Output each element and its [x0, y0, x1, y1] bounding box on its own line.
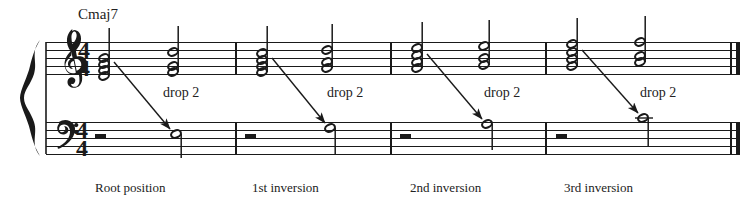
caption-3rd-inversion: 3rd inversion	[564, 180, 633, 196]
system-brace	[20, 40, 40, 156]
drop2-arrow-2	[272, 58, 325, 123]
svg-text:4: 4	[78, 55, 90, 81]
rest-m1	[95, 134, 106, 139]
rest-m4	[556, 134, 567, 139]
caption-1st-inversion: 1st inversion	[252, 180, 319, 196]
chord-m2-source	[256, 26, 268, 77]
measure-2	[245, 24, 336, 154]
caption-2nd-inversion: 2nd inversion	[410, 180, 481, 196]
caption-root-position: Root position	[95, 180, 165, 196]
chord-m3-drop2-treble	[478, 20, 490, 70]
music-notation-figure: 4 4 4 4	[0, 0, 752, 213]
chord-symbol-cmaj7: Cmaj7	[78, 6, 118, 23]
svg-text:4: 4	[76, 135, 88, 161]
rest-m3	[400, 134, 411, 139]
drop2-arrow-4	[582, 50, 638, 113]
drop2-arrow-3	[427, 54, 482, 119]
measure-4	[556, 16, 653, 146]
drop2-label-1: drop 2	[163, 85, 199, 101]
drop2-label-4: drop 2	[640, 85, 676, 101]
chord-m4-source	[566, 18, 578, 71]
chord-m2-drop2-treble	[321, 24, 333, 73]
drop2-arrow-1	[114, 62, 170, 129]
chord-m1-drop2-treble	[167, 26, 179, 77]
chord-m3-source	[411, 22, 423, 73]
final-barline	[731, 42, 740, 154]
drop2-label-3: drop 2	[484, 85, 520, 101]
time-signature-bass: 4 4	[76, 117, 88, 161]
drop2-label-2: drop 2	[327, 85, 363, 101]
time-signature-treble: 4 4	[78, 37, 90, 81]
bass-staff-lines	[46, 122, 740, 154]
note-m3-dropped-bass	[481, 119, 493, 150]
note-m4-dropped-bass	[635, 113, 653, 146]
chord-m1-source	[98, 28, 110, 81]
rest-m2	[245, 134, 256, 139]
